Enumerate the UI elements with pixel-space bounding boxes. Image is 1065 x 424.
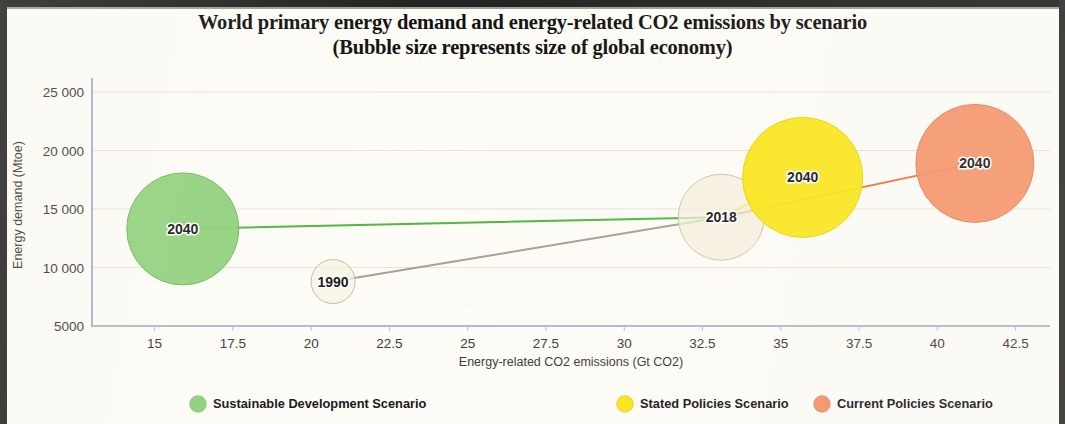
- x-tick-label: 27.5: [533, 336, 559, 351]
- x-tick-label: 22.5: [376, 336, 402, 351]
- y-tick-label: 10 000: [43, 261, 84, 276]
- x-tick-label: 17.5: [220, 336, 246, 351]
- gridlines: [92, 92, 1050, 326]
- y-tick-label: 25 000: [43, 85, 84, 100]
- bubble-labels: 19902018204020402040: [167, 155, 990, 289]
- y-axis-title: Energy demand (Mtoe): [11, 141, 25, 269]
- legend-label-2: Current Policies Scenario: [837, 396, 993, 411]
- bubble-label-1990: 1990: [317, 274, 348, 290]
- y-axis-tick-labels: 25 00020 00015 00010 0005000: [43, 85, 84, 334]
- legend-marker-1: [617, 396, 634, 413]
- x-tick-label: 30: [617, 336, 632, 351]
- bubble-label-2040: 2040: [787, 169, 818, 185]
- x-tick-label: 42.5: [1002, 336, 1028, 351]
- x-axis-title: Energy-related CO2 emissions (Gt CO2): [459, 355, 683, 369]
- y-tick-label: 15 000: [43, 202, 84, 217]
- y-tick-label: 20 000: [43, 144, 84, 159]
- chart-figure: World primary energy demand and energy-r…: [0, 0, 1065, 424]
- x-tick-label: 32.5: [689, 336, 715, 351]
- x-tick-label: 35: [773, 336, 788, 351]
- bubbles: [127, 104, 1034, 303]
- bubble-label-2040: 2040: [167, 221, 198, 237]
- legend-label-0: Sustainable Development Scenario: [213, 396, 427, 411]
- chart-legend: Sustainable Development ScenarioStated P…: [190, 396, 993, 413]
- x-tick-label: 15: [147, 336, 162, 351]
- bubble-label-2018: 2018: [706, 209, 737, 225]
- bubble-label-2040: 2040: [959, 155, 990, 171]
- x-axis-tick-labels: 1517.52022.52527.53032.53537.54042.5: [147, 326, 1029, 351]
- x-tick-label: 37.5: [846, 336, 872, 351]
- bubble-chart-canvas: 25 00020 00015 00010 0005000 1517.52022.…: [0, 0, 1065, 424]
- historical-1990-to-2018: [333, 217, 721, 281]
- x-tick-label: 20: [304, 336, 319, 351]
- legend-label-1: Stated Policies Scenario: [640, 396, 789, 411]
- legend-marker-2: [814, 396, 831, 413]
- x-tick-label: 40: [930, 336, 945, 351]
- x-tick-label: 25: [460, 336, 475, 351]
- sds-2018-to-2040: [183, 217, 721, 229]
- y-tick-label: 5000: [54, 319, 84, 334]
- legend-marker-0: [190, 396, 207, 413]
